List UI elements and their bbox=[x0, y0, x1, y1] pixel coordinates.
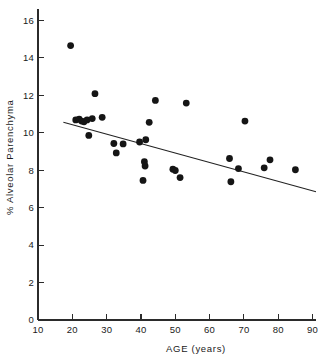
data-point bbox=[227, 178, 234, 185]
x-tick-label: 30 bbox=[101, 324, 112, 335]
data-point bbox=[267, 156, 274, 163]
x-tick-label: 10 bbox=[33, 324, 44, 335]
data-point bbox=[140, 177, 147, 184]
x-axis-title: AGE (years) bbox=[166, 343, 226, 354]
y-tick-label: 8 bbox=[29, 165, 34, 176]
data-points-group bbox=[67, 42, 299, 185]
data-point bbox=[142, 136, 149, 143]
data-point bbox=[67, 42, 74, 49]
data-point bbox=[136, 139, 143, 146]
data-point bbox=[85, 132, 92, 139]
y-tick-label: 6 bbox=[29, 202, 34, 213]
x-axis-ticks: 102030405060708090 bbox=[33, 314, 319, 335]
y-axis-group: 0246810121416 % Alveolar Parenchyma bbox=[4, 9, 44, 325]
data-point bbox=[235, 165, 242, 172]
data-point bbox=[120, 140, 127, 147]
regression-line bbox=[63, 122, 316, 191]
y-axis-title: % Alveolar Parenchyma bbox=[4, 99, 15, 215]
x-tick-label: 70 bbox=[238, 324, 249, 335]
regression-line-segment bbox=[63, 122, 316, 191]
data-point bbox=[226, 155, 233, 162]
chart-canvas: 0246810121416 % Alveolar Parenchyma 1020… bbox=[0, 0, 326, 362]
y-tick-label: 10 bbox=[23, 127, 34, 138]
data-point bbox=[89, 115, 96, 122]
data-point bbox=[92, 90, 99, 97]
x-tick-label: 20 bbox=[67, 324, 78, 335]
data-point bbox=[261, 164, 268, 171]
data-point bbox=[152, 97, 159, 104]
y-tick-label: 4 bbox=[29, 239, 34, 250]
data-point bbox=[242, 118, 249, 125]
y-axis-ticks: 0246810121416 bbox=[23, 15, 44, 326]
x-tick-label: 80 bbox=[273, 324, 284, 335]
y-tick-label: 16 bbox=[23, 15, 34, 26]
x-tick-label: 40 bbox=[135, 324, 146, 335]
data-point bbox=[177, 174, 184, 181]
data-point bbox=[146, 119, 153, 126]
data-point bbox=[99, 114, 106, 121]
data-point bbox=[110, 140, 117, 147]
y-tick-label: 2 bbox=[29, 277, 34, 288]
y-tick-label: 12 bbox=[23, 90, 34, 101]
x-tick-label: 90 bbox=[307, 324, 318, 335]
scatter-plot-figure: 0246810121416 % Alveolar Parenchyma 1020… bbox=[0, 0, 326, 362]
data-point bbox=[172, 167, 179, 174]
data-point bbox=[142, 163, 149, 170]
y-tick-label: 14 bbox=[23, 52, 34, 63]
x-tick-label: 50 bbox=[170, 324, 181, 335]
data-point bbox=[183, 100, 190, 107]
x-tick-label: 60 bbox=[204, 324, 215, 335]
data-point bbox=[113, 149, 120, 156]
x-axis-group: 102030405060708090 AGE (years) bbox=[33, 314, 319, 354]
data-point bbox=[292, 166, 299, 173]
